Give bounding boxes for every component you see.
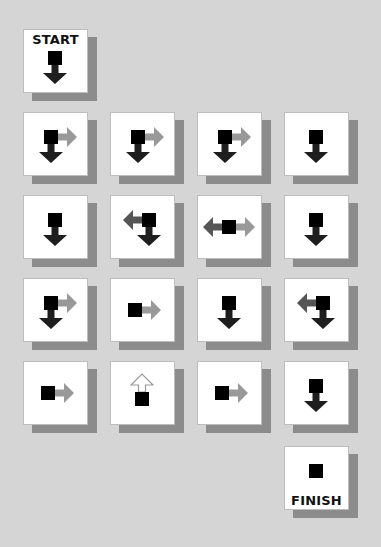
square-marker-icon (309, 130, 323, 144)
grid-tile-r2-c4[interactable] (284, 195, 349, 259)
square-marker-icon (215, 386, 229, 400)
start-tile[interactable]: START (23, 29, 88, 93)
square-marker-icon (316, 296, 330, 310)
arrow-right-icon (142, 300, 161, 320)
square-marker-icon (41, 386, 55, 400)
arrow-left-icon (297, 293, 316, 313)
arrow-right-icon (236, 217, 255, 237)
grid-tile-r4-c2[interactable] (110, 361, 175, 425)
arrow-down-icon (39, 310, 63, 329)
arrow-right-icon (229, 383, 248, 403)
arrow-down-icon (304, 144, 328, 163)
arrow-down-icon (213, 144, 237, 163)
arrow-up-icon (131, 374, 153, 392)
arrow-down-icon (304, 227, 328, 246)
square-marker-icon (218, 130, 232, 144)
arrow-right-icon (55, 383, 74, 403)
square-marker-icon (222, 296, 236, 310)
arrow-down-icon (137, 227, 161, 246)
arrow-left-icon (123, 210, 142, 230)
grid-tile-r3-c2[interactable] (110, 278, 175, 342)
grid-tile-r1-c2[interactable] (110, 112, 175, 176)
grid-tile-r2-c2[interactable] (110, 195, 175, 259)
arrow-down-icon (126, 144, 150, 163)
square-marker-icon (309, 464, 323, 478)
square-marker-icon (128, 303, 142, 317)
arrow-down-icon (43, 65, 67, 84)
grid-tile-r3-c4[interactable] (284, 278, 349, 342)
square-marker-icon (131, 130, 145, 144)
arrow-down-icon (217, 310, 241, 329)
square-marker-icon (142, 213, 156, 227)
grid-tile-r3-c1[interactable] (23, 278, 88, 342)
arrow-right-icon (58, 127, 77, 147)
square-marker-icon (44, 296, 58, 310)
grid-tile-r1-c3[interactable] (197, 112, 262, 176)
square-marker-icon (309, 213, 323, 227)
arrow-right-icon (58, 293, 77, 313)
arrow-down-icon (311, 310, 335, 329)
grid-tile-r4-c1[interactable] (23, 361, 88, 425)
square-marker-icon (44, 130, 58, 144)
arrow-left-icon (203, 217, 222, 237)
grid-tile-r4-c4[interactable] (284, 361, 349, 425)
square-marker-icon (309, 379, 323, 393)
grid-tile-r2-c1[interactable] (23, 195, 88, 259)
finish-tile[interactable]: FINISH (284, 446, 349, 510)
arrow-down-icon (43, 227, 67, 246)
square-marker-icon (222, 220, 236, 234)
arrow-down-icon (304, 393, 328, 412)
square-marker-icon (48, 213, 62, 227)
grid-tile-r1-c4[interactable] (284, 112, 349, 176)
grid-tile-r4-c3[interactable] (197, 361, 262, 425)
grid-tile-r3-c3[interactable] (197, 278, 262, 342)
square-marker-icon (135, 392, 149, 406)
arrow-right-icon (232, 127, 251, 147)
arrow-right-icon (145, 127, 164, 147)
grid-tile-r2-c3[interactable] (197, 195, 262, 259)
arrow-down-icon (39, 144, 63, 163)
grid-tile-r1-c1[interactable] (23, 112, 88, 176)
square-marker-icon (48, 51, 62, 65)
